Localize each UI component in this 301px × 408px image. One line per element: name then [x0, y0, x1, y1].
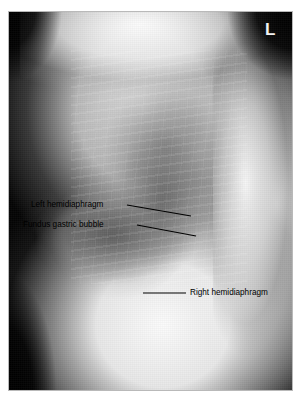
air-corner-top-left	[9, 12, 77, 103]
annotation-label-fundus-gastric-bubble: Fundus gastric bubble	[23, 221, 104, 229]
air-corner-bottom-left	[9, 239, 71, 390]
lower-lung-field-region	[49, 178, 196, 307]
air-corner-top-right	[213, 12, 292, 95]
mediastinal-shadow-region	[111, 125, 213, 276]
laterality-marker-l: L	[265, 21, 276, 38]
posterior-chest-wall-region	[213, 20, 292, 375]
chest-wall-region	[20, 12, 292, 193]
rib-and-vertebra-texture	[71, 50, 246, 284]
annotation-label-right-hemidiaphragm: Right hemidiaphragm	[190, 289, 268, 297]
radiograph-figure: L Left hemidiaphragm Fundus gastric bubb…	[0, 0, 301, 408]
upper-lung-field-region	[83, 65, 247, 231]
annotation-label-left-hemidiaphragm: Left hemidiaphragm	[31, 201, 103, 209]
